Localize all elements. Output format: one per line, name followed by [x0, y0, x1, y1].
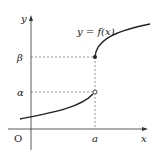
closed-point	[93, 55, 97, 59]
curve-label: y = f(x)	[76, 26, 115, 37]
x-axis-arrow-icon	[142, 127, 148, 131]
x-tick-a: a	[92, 133, 98, 144]
x-axis-label: x	[141, 133, 147, 144]
y-tick-alpha: α	[17, 87, 24, 98]
y-axis-label: y	[20, 13, 27, 24]
function-graph: y x O a β α y = f(x)	[0, 0, 161, 159]
y-axis-arrow-icon	[29, 15, 33, 21]
open-point	[93, 90, 97, 94]
y-tick-beta: β	[16, 52, 23, 63]
origin-label: O	[14, 133, 22, 144]
